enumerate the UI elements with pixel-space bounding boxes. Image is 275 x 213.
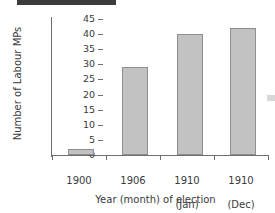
y-tick-label: 20: [83, 89, 95, 100]
y-tick-label: 40: [83, 28, 95, 39]
bar-1910-dec: [230, 28, 256, 155]
x-label-year: 1906: [106, 175, 160, 187]
x-label-year: 1910: [214, 175, 268, 187]
x-tick-label-1910-dec: 1910 (Dec): [214, 163, 268, 213]
y-tick-label: 35: [83, 43, 95, 54]
bar-1910-jan: [177, 34, 203, 155]
x-tick-label-1910-jan: 1910 (Jan): [160, 163, 214, 213]
y-tick-label: 5: [89, 134, 95, 145]
y-tick-25: 25: [98, 79, 103, 80]
y-tick-label: 45: [83, 13, 95, 24]
y-tick-30: 30: [98, 64, 103, 65]
y-tick-label: 10: [83, 119, 95, 130]
x-label-year: 1910: [160, 175, 214, 187]
x-tick: [268, 155, 269, 160]
x-tick: [214, 155, 215, 160]
y-tick-40: 40: [98, 34, 103, 35]
x-tick: [106, 155, 107, 160]
x-axis-title: Year (month) of election: [0, 194, 275, 205]
y-tick-20: 20: [98, 95, 103, 96]
y-tick-0: 0: [98, 155, 103, 156]
y-tick-10: 10: [98, 125, 103, 126]
y-tick-label: 25: [83, 73, 95, 84]
x-axis-title-text: Year (month) of election: [95, 194, 215, 205]
y-tick-15: 15: [98, 110, 103, 111]
bar-1900: [68, 149, 94, 155]
y-axis-title: Number of Labour MPs: [12, 19, 23, 149]
x-tick: [52, 155, 53, 160]
y-tick-5: 5: [98, 140, 103, 141]
y-tick-45: 45: [98, 19, 103, 20]
y-tick-label: 30: [83, 58, 95, 69]
chart-figure: 45 40 35 30 25 20 15 10: [0, 0, 275, 213]
y-tick-35: 35: [98, 49, 103, 50]
bar-1906: [122, 67, 148, 155]
x-label-year: 1900: [52, 175, 106, 187]
scan-artifact: [267, 95, 275, 101]
redacted-title-rule: [17, 0, 116, 5]
plot-area: 45 40 35 30 25 20 15 10: [52, 19, 268, 155]
y-tick-label: 15: [83, 104, 95, 115]
x-tick: [160, 155, 161, 160]
